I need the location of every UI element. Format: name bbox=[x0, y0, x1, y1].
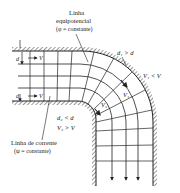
v1-relation-label: V₁ < V bbox=[143, 72, 162, 79]
v1-label: V₁ bbox=[123, 91, 129, 98]
streamline-label: Linha de corrente bbox=[11, 139, 57, 146]
d-bottom-label: d bbox=[16, 93, 20, 99]
v2-label: V₂ bbox=[101, 101, 108, 108]
v2-relation-label: V₂ > V bbox=[57, 124, 76, 131]
v-bottom-label: V bbox=[39, 93, 44, 99]
streamline-1 bbox=[18, 64, 138, 180]
d1-relation-label: d₁ > d bbox=[117, 49, 134, 56]
streamline-const-label: (ψ = constante) bbox=[14, 148, 51, 155]
d-top-label: d bbox=[16, 56, 20, 62]
equipotential-label-2: equipotencial bbox=[56, 17, 91, 24]
flow-net-diagram: Linha equipotencial (φ = constante) d V … bbox=[0, 0, 180, 193]
d2-relation-label: d₂ < d bbox=[57, 114, 74, 121]
streamlines bbox=[18, 64, 138, 180]
equipotential-label-1: Linha bbox=[69, 9, 84, 16]
equipotential-const-label: (φ = constante) bbox=[56, 26, 93, 33]
v-top-label: V bbox=[39, 55, 44, 61]
outer-wall bbox=[12, 47, 157, 186]
